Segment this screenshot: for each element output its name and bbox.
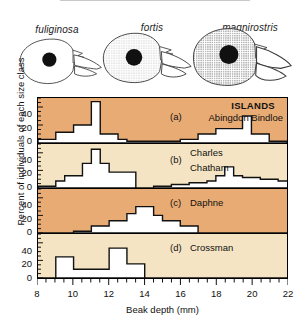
histogram-chart: Percent of individuals of each size clas…	[0, 96, 307, 331]
x-tick-label: 18	[211, 288, 222, 299]
x-tick-label: 20	[247, 288, 258, 299]
figure-root: fuliginosa fortis	[0, 0, 307, 331]
finch-head-fortis	[97, 30, 195, 88]
y-tick-label: 40	[21, 108, 32, 119]
finch-head-magnirostris	[184, 26, 298, 90]
x-tick-label: 14	[139, 288, 150, 299]
panel-c-histogram	[38, 189, 287, 233]
y-tick-label: 0	[27, 135, 32, 146]
y-tick-label: 0	[27, 226, 32, 237]
x-tick-label: 16	[175, 288, 186, 299]
x-axis-ticks	[37, 279, 288, 288]
x-tick-label: 8	[34, 288, 39, 299]
species-label-fuliginosa: fuliginosa	[7, 24, 107, 35]
panel-b: Charles Chatham (b)	[38, 143, 287, 188]
panel-b-code: (b)	[170, 154, 182, 165]
x-tick-label: 12	[103, 288, 114, 299]
panel-a-islands: Abingdon Bindloe	[209, 112, 283, 123]
panel-c: Daphne (c)	[38, 188, 287, 233]
panel-b-islands-2: Chatham	[190, 162, 229, 173]
panel-d: Crossman (d)	[38, 233, 287, 278]
species-illustration-panel: fuliginosa fortis	[0, 0, 307, 96]
x-tick-label: 10	[68, 288, 79, 299]
y-tick-label: 20	[21, 167, 32, 178]
y-tick-label: 20	[21, 258, 32, 269]
y-axis: Percent of individuals of each size clas…	[0, 96, 37, 278]
x-axis: Beak depth (mm) 810121416182022	[37, 279, 288, 319]
y-tick-label: 40	[21, 153, 32, 164]
y-tick-label: 40	[21, 199, 32, 210]
legend-title: ISLANDS	[231, 100, 275, 111]
panel-c-islands: Daphne	[190, 197, 223, 208]
panel-c-code: (c)	[170, 197, 181, 208]
y-axis-title-wrap: Percent of individuals of each size clas…	[0, 96, 14, 278]
y-tick-label: 0	[27, 180, 32, 191]
x-tick-label: 22	[283, 288, 294, 299]
panel-d-histogram	[38, 234, 287, 278]
y-tick-label: 0	[27, 271, 32, 282]
panel-b-islands-1: Charles	[190, 147, 223, 158]
y-tick-label: 20	[21, 121, 32, 132]
y-tick-label: 20	[21, 212, 32, 223]
finch-head-fuliginosa	[14, 36, 106, 88]
y-tick-label: 40	[21, 244, 32, 255]
panel-stack: ISLANDS Abingdon Bindloe (a) Charles Cha…	[37, 97, 288, 279]
panel-d-code: (d)	[170, 242, 182, 253]
panel-a-code: (a)	[170, 111, 182, 122]
panel-d-islands: Crossman	[190, 242, 233, 253]
panel-b-histogram	[38, 144, 287, 188]
x-axis-title: Beak depth (mm)	[37, 304, 288, 315]
panel-a: ISLANDS Abingdon Bindloe (a)	[38, 98, 287, 143]
